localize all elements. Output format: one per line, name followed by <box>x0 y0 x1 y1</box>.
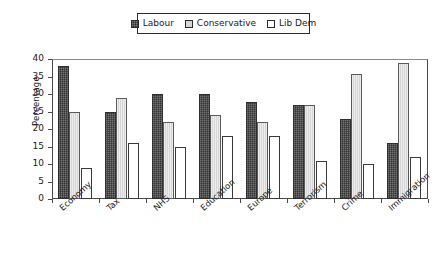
bar-labour <box>340 119 351 200</box>
legend-item-conservative: Conservative <box>185 19 256 28</box>
bar-group <box>334 59 381 199</box>
y-axis-tick-label: 35 <box>22 72 44 81</box>
bar-group <box>287 59 334 199</box>
legend-label-conservative: Conservative <box>197 19 256 28</box>
x-axis-tick-mark <box>146 199 147 203</box>
bar-group <box>240 59 287 199</box>
legend-item-labour: Labour <box>131 19 174 28</box>
libdem-swatch-icon <box>267 20 275 28</box>
legend-label-labour: Labour <box>143 19 174 28</box>
y-axis-tick-label: 30 <box>22 89 44 98</box>
x-axis-tick-mark <box>240 199 241 203</box>
x-axis-tick-mark <box>52 199 53 203</box>
bar-libdem <box>128 143 139 199</box>
bar-conservative <box>116 98 127 199</box>
bar-labour <box>199 94 210 199</box>
bar-labour <box>58 66 69 199</box>
x-axis-tick-mark <box>99 199 100 203</box>
x-axis-tick-mark <box>334 199 335 203</box>
bar-group <box>52 59 99 199</box>
bar-chart: Labour Conservative Lib Dem Percentage 0… <box>0 0 445 266</box>
bar-libdem <box>175 147 186 200</box>
bar-group <box>99 59 146 199</box>
bar-labour <box>387 143 398 199</box>
bar-conservative <box>351 74 362 199</box>
legend-label-libdem: Lib Dem <box>279 19 316 28</box>
bar-libdem <box>363 164 374 199</box>
y-axis-tick-label: 10 <box>22 159 44 168</box>
legend-item-libdem: Lib Dem <box>267 19 316 28</box>
bar-labour <box>105 112 116 200</box>
bar-conservative <box>398 63 409 200</box>
plot-area <box>52 59 428 199</box>
bar-group <box>193 59 240 199</box>
bar-group <box>146 59 193 199</box>
conservative-swatch-icon <box>185 20 193 28</box>
y-axis-tick-label: 5 <box>22 177 44 186</box>
labour-swatch-icon <box>131 20 139 28</box>
y-axis-tick-label: 25 <box>22 107 44 116</box>
chart-legend: Labour Conservative Lib Dem <box>137 13 310 34</box>
bar-labour <box>246 102 257 199</box>
y-axis-tick-label: 15 <box>22 142 44 151</box>
y-axis-tick-label: 20 <box>22 124 44 133</box>
x-axis-tick-mark <box>193 199 194 203</box>
x-axis-tick-mark <box>381 199 382 203</box>
x-axis-tick-mark <box>428 199 429 203</box>
bar-labour <box>293 105 304 200</box>
bar-conservative <box>163 122 174 199</box>
x-axis-tick-mark <box>287 199 288 203</box>
y-axis-tick-label: 0 <box>22 194 44 203</box>
bar-labour <box>152 94 163 199</box>
y-axis-tick-label: 40 <box>22 54 44 63</box>
